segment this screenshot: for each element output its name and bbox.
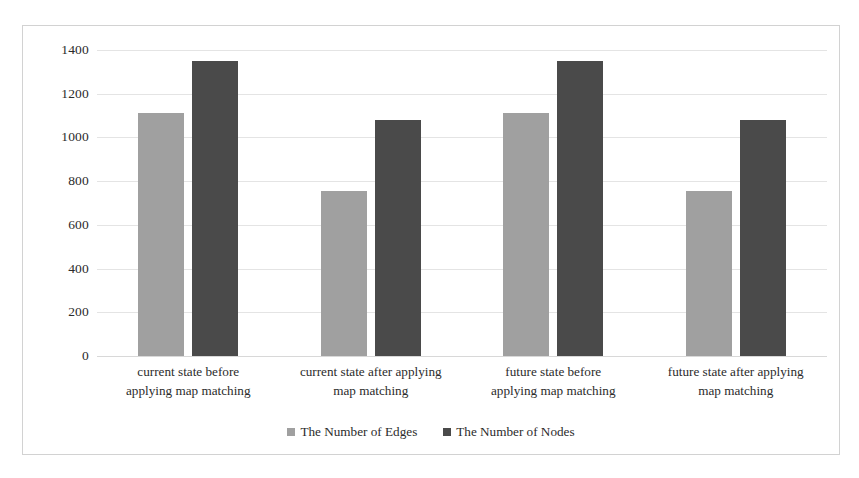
bar-groups <box>97 26 827 356</box>
bar-group <box>645 26 828 356</box>
bar-group <box>462 26 645 356</box>
bar-nodes[interactable] <box>740 120 786 356</box>
x-label-line2: applying map matching <box>126 383 251 398</box>
y-axis-tick: 200 <box>68 304 89 320</box>
bar-group <box>280 26 463 356</box>
y-axis-tick: 0 <box>82 348 89 364</box>
bar-edges[interactable] <box>138 113 184 356</box>
plot-wrapper: 1400 1200 1000 800 600 400 200 0 <box>23 26 839 356</box>
legend-item-edges[interactable]: The Number of Edges <box>287 424 417 440</box>
bar-edges[interactable] <box>321 191 367 356</box>
x-axis-category-label: future state after applying map matching <box>645 358 828 420</box>
square-marker-icon <box>443 428 451 436</box>
x-axis-category-label: future state before applying map matchin… <box>462 358 645 420</box>
bar-edges[interactable] <box>503 113 549 356</box>
bar-chart-figure: 1400 1200 1000 800 600 400 200 0 <box>22 25 840 455</box>
y-axis: 1400 1200 1000 800 600 400 200 0 <box>23 26 97 356</box>
x-label-line2: applying map matching <box>491 383 616 398</box>
bar-group <box>97 26 280 356</box>
x-label-line1: current state after applying <box>300 364 442 379</box>
chart-legend: The Number of Edges The Number of Nodes <box>23 424 839 440</box>
x-label-line1: future state after applying <box>668 364 804 379</box>
x-label-line1: future state before <box>505 364 601 379</box>
x-axis-labels: current state before applying map matchi… <box>97 358 827 420</box>
legend-label: The Number of Edges <box>300 424 417 440</box>
bar-nodes[interactable] <box>557 61 603 356</box>
axis-baseline <box>97 356 827 357</box>
y-axis-tick: 1200 <box>61 86 89 102</box>
x-axis-category-label: current state before applying map matchi… <box>97 358 280 420</box>
x-axis-category-label: current state after applying map matchin… <box>280 358 463 420</box>
legend-label: The Number of Nodes <box>456 424 574 440</box>
x-label-line2: map matching <box>333 383 408 398</box>
square-marker-icon <box>287 428 295 436</box>
y-axis-tick: 1000 <box>61 129 89 145</box>
bar-nodes[interactable] <box>192 61 238 356</box>
y-axis-tick: 800 <box>68 173 89 189</box>
plot-area <box>97 26 827 356</box>
legend-item-nodes[interactable]: The Number of Nodes <box>443 424 574 440</box>
y-axis-tick: 400 <box>68 261 89 277</box>
y-axis-tick: 600 <box>68 217 89 233</box>
x-label-line1: current state before <box>137 364 239 379</box>
bar-nodes[interactable] <box>375 120 421 356</box>
bar-edges[interactable] <box>686 191 732 356</box>
x-label-line2: map matching <box>698 383 773 398</box>
y-axis-tick: 1400 <box>61 42 89 58</box>
